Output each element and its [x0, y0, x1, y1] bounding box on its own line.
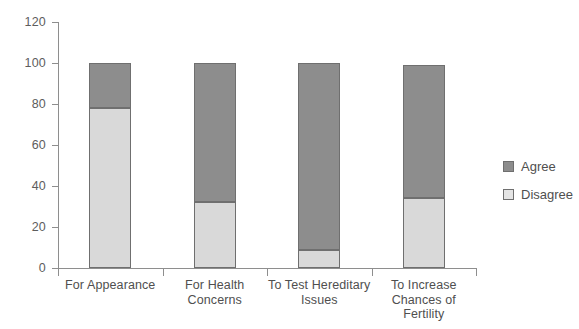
y-tick-mark [52, 227, 59, 228]
y-tick-label: 100 [0, 57, 46, 69]
legend-item-disagree[interactable]: Disagree [503, 188, 573, 201]
x-axis-label-1: For Appearance [52, 278, 169, 293]
y-tick-mark [52, 104, 59, 105]
x-axis-label-line: Issues [261, 293, 378, 308]
legend-swatch-agree-icon [503, 161, 514, 172]
bar-segment-disagree [194, 202, 236, 268]
legend-label: Agree [521, 160, 556, 173]
y-tick-mark [52, 22, 59, 23]
legend-label: Disagree [521, 188, 573, 201]
bar-segment-agree [298, 63, 340, 250]
y-tick-label: 80 [0, 98, 46, 110]
x-axis-label-line: Chances of [366, 293, 483, 308]
bar-2 [194, 63, 236, 268]
bar-segment-agree [89, 63, 131, 108]
x-tick-mark [163, 268, 164, 276]
x-tick-mark [267, 268, 268, 276]
bar-segment-agree [194, 63, 236, 202]
x-tick-mark [476, 268, 477, 276]
x-axis-label-line: To Test Hereditary [261, 278, 378, 293]
x-axis-label-line: Concerns [157, 293, 274, 308]
bar-1 [89, 63, 131, 268]
bar-segment-disagree [298, 250, 340, 268]
bar-segment-disagree [89, 108, 131, 268]
bar-segment-disagree [403, 198, 445, 268]
bar-segment-agree [403, 65, 445, 198]
x-axis-label-line: To Increase [366, 278, 483, 293]
x-axis-label-2: For HealthConcerns [157, 278, 274, 307]
bar-3 [298, 63, 340, 268]
y-tick-label: 0 [0, 262, 46, 274]
y-tick-label: 60 [0, 139, 46, 151]
x-axis-label-line: Fertility [366, 307, 483, 322]
stacked-bar-chart: 020406080100120 For AppearanceFor Health… [0, 0, 579, 329]
legend-item-agree[interactable]: Agree [503, 160, 573, 173]
x-axis-label-3: To Test HereditaryIssues [261, 278, 378, 307]
bar-4 [403, 65, 445, 268]
y-tick-label: 40 [0, 180, 46, 192]
chart-legend: AgreeDisagree [503, 160, 573, 216]
x-tick-mark [58, 268, 59, 276]
legend-swatch-disagree-icon [503, 189, 514, 200]
y-tick-mark [52, 145, 59, 146]
y-tick-label: 120 [0, 16, 46, 28]
y-tick-mark [52, 63, 59, 64]
y-tick-label: 20 [0, 221, 46, 233]
y-tick-mark [52, 186, 59, 187]
x-axis-label-line: For Health [157, 278, 274, 293]
x-axis-label-4: To IncreaseChances ofFertility [366, 278, 483, 322]
x-axis-label-line: For Appearance [52, 278, 169, 293]
x-tick-mark [372, 268, 373, 276]
